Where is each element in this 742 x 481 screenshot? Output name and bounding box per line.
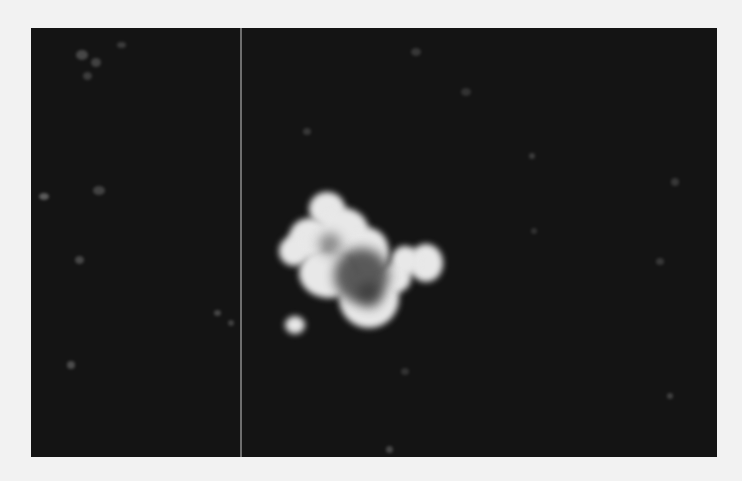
satellite-cell [285,316,305,334]
speck [117,42,126,48]
speck [671,178,679,186]
microscopy-image [31,28,717,457]
speck [39,193,49,200]
speck [529,153,535,159]
speck [228,320,234,326]
speck [303,128,311,135]
speck [76,50,88,60]
speck [531,228,537,234]
speck [401,368,409,375]
speck [93,186,105,195]
speck [214,310,221,316]
speck [461,88,471,96]
speck [91,58,101,67]
speck [656,258,664,265]
speck [67,361,75,369]
speck [83,72,92,80]
speck [386,446,393,453]
speck [75,256,84,264]
speck [667,393,673,399]
vertical-line-artifact [240,28,242,457]
speck [411,48,421,56]
